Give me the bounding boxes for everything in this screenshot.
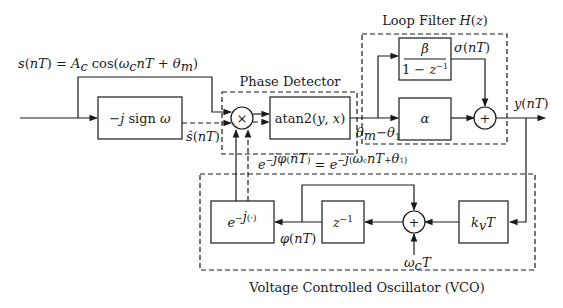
integrator-numerator: β [420, 41, 429, 56]
filter-output-label: y(nT) [513, 96, 549, 111]
hilbert-output-label: ŝ(nT) [186, 129, 220, 144]
proportional-gain-text: α [421, 111, 430, 126]
hilbert-transform-text: −j sign ω [109, 111, 171, 126]
pll-block-diagram: Phase Detector Loop Filter H(z) Voltage … [0, 0, 563, 308]
phase-detector-label: Phase Detector [240, 74, 342, 89]
vco-sum-symbol: + [409, 215, 420, 230]
vco-phase-label: φ(nT) [280, 231, 316, 246]
sigma-label: σ(nT) [454, 40, 490, 55]
loop-filter-label: Loop Filter H(z) [382, 13, 488, 28]
vco-output-label: e−jφ(nT) = e−j(ωcnT+θ1) [258, 151, 407, 172]
phase-error-branch-wire [378, 56, 398, 118]
loop-filter-sum-symbol: + [480, 111, 491, 126]
phase-error-label: θm−θ1 [356, 125, 401, 143]
vco-label: Voltage Controlled Oscillator (VCO) [248, 280, 485, 295]
multiplier-symbol: × [237, 111, 248, 126]
atan2-text: atan2(y, x) [275, 111, 346, 126]
integrator-to-sum-wire [451, 59, 485, 106]
input-signal-label: s(nT) = Ac cos(ωcnT + θm) [18, 56, 198, 74]
feedback-down-wire [510, 118, 526, 222]
